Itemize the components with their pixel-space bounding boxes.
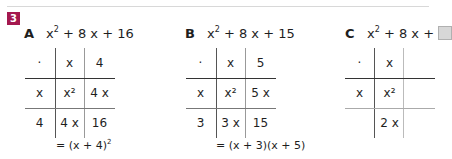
grid-line xyxy=(186,78,276,79)
grid-cell: x² xyxy=(375,78,404,108)
grid-cell: 5 x xyxy=(246,78,275,108)
expression-base: x xyxy=(207,26,215,41)
grid-cell: 15 xyxy=(246,108,275,138)
grid-cell: 3 xyxy=(186,108,215,138)
task-letter: C xyxy=(345,24,367,44)
grid-cell: x xyxy=(375,48,404,78)
blank-answer-box[interactable] xyxy=(438,26,452,40)
task-a-header: Ax2 + 8 x + 16 xyxy=(24,24,134,44)
grid-cell: x xyxy=(25,78,54,108)
grid-cell: 5 xyxy=(246,48,275,78)
expression-rest: + 8 x + 16 xyxy=(59,26,134,41)
grid-line xyxy=(245,48,246,138)
grid-cell: 4 x xyxy=(55,108,84,138)
result-text: = (x + 3)(x + 5) xyxy=(216,139,305,152)
task-letter: B xyxy=(185,24,207,44)
grid-cell: x xyxy=(186,78,215,108)
exercise-number-badge: 3 xyxy=(7,12,20,25)
grid-cell-blank[interactable] xyxy=(345,108,374,138)
grid-cell: 4 xyxy=(25,108,54,138)
grid-cell: 16 xyxy=(85,108,114,138)
task-letter: A xyxy=(24,24,46,44)
grid-cell: x xyxy=(345,78,374,108)
grid-cell: 4 xyxy=(85,48,114,78)
grid-line xyxy=(84,48,85,138)
grid-line xyxy=(55,48,56,138)
grid-line xyxy=(374,48,375,138)
expression-base: x xyxy=(46,26,54,41)
task-c-header: Cx2 + 8 x + xyxy=(345,24,452,44)
grid-cell: 3 x xyxy=(216,108,245,138)
grid-cell: x² xyxy=(55,78,84,108)
grid-line xyxy=(345,108,435,109)
grid-line xyxy=(25,78,115,79)
grid-cell: 2 x xyxy=(375,108,404,138)
grid-cell-blank[interactable] xyxy=(405,108,434,138)
result-b: = (x + 3)(x + 5) xyxy=(216,139,305,152)
expression-rest: + 8 x + xyxy=(380,26,438,41)
grid-line xyxy=(186,108,276,109)
grid-line xyxy=(403,48,404,138)
grid-cell-blank[interactable] xyxy=(405,78,434,108)
task-b-header: Bx2 + 8 x + 15 xyxy=(185,24,295,44)
grid-cell: x xyxy=(216,48,245,78)
grid-cell: · xyxy=(345,48,374,78)
grid-line xyxy=(345,78,435,79)
result-exponent: 2 xyxy=(107,138,111,146)
grid-line xyxy=(216,48,217,138)
grid-cell: x² xyxy=(216,78,245,108)
grid-cell: 4 x xyxy=(85,78,114,108)
grid-cell: · xyxy=(186,48,215,78)
expression-base: x xyxy=(367,26,375,41)
grid-line xyxy=(25,108,115,109)
result-text: = (x + 4) xyxy=(56,139,107,152)
grid-cell-blank[interactable] xyxy=(405,48,434,78)
expression-rest: + 8 x + 15 xyxy=(220,26,295,41)
grid-cell: · xyxy=(25,48,54,78)
grid-cell: x xyxy=(55,48,84,78)
result-a: = (x + 4)2 xyxy=(56,139,111,152)
top-divider xyxy=(7,6,429,7)
